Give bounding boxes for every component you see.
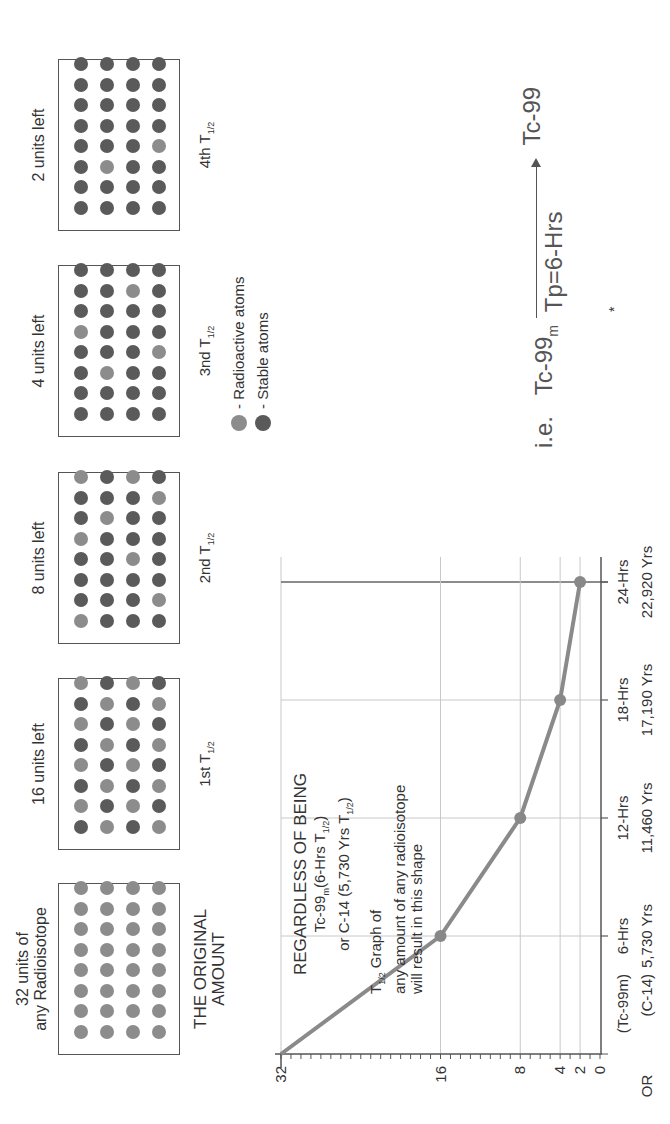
- value-tick-label: 4: [551, 1066, 568, 1074]
- note-line-c14: or C-14 (5,730 Yrs T1/2): [335, 754, 359, 994]
- chart-note: REGARDLESS OF BEING Tc-99m(6-Hrs T1/2) o…: [292, 754, 425, 994]
- value-tick-label: 32: [272, 1066, 289, 1083]
- row-prefix-tc99m: (Tc-99m): [614, 974, 631, 1033]
- time-label-tc99m: 18-Hrs: [614, 677, 631, 722]
- or-label: OR: [638, 1075, 655, 1098]
- decay-equation: i.e. Tc-99m Tp=6-Hrs Tc-99: [530, 87, 561, 448]
- time-label-tc99m: 12-Hrs: [614, 795, 631, 840]
- equation-prefix: i.e.: [530, 416, 557, 448]
- row-prefix-c14: (C-14): [638, 974, 655, 1017]
- figure-stage: 32 units ofany RadioisotopeTHE ORIGINALA…: [0, 0, 670, 1124]
- asterisk-mark: *: [606, 307, 622, 312]
- equation-reactant: Tc-99m: [530, 325, 557, 395]
- time-label-tc99m: 6-Hrs: [614, 918, 631, 955]
- note-line-graph: T1/2 Graph of: [367, 754, 391, 994]
- equation-product: Tc-99: [518, 87, 545, 146]
- value-tick-label: 0: [591, 1066, 608, 1074]
- note-title: REGARDLESS OF BEING: [292, 754, 309, 994]
- time-label-c14: 11,460 Yrs: [638, 782, 655, 853]
- time-label-c14: 5,730 Yrs: [638, 904, 655, 968]
- time-label-c14: 17,190 Yrs: [638, 664, 655, 736]
- equation-condition: Tp=6-Hrs: [540, 212, 568, 313]
- value-tick-label: 2: [571, 1066, 588, 1074]
- data-point-marker: [574, 576, 586, 588]
- note-line-any-amount: any amount of any radioisotope: [391, 754, 408, 994]
- equation-arrow: Tp=6-Hrs: [534, 158, 558, 318]
- value-tick-label: 16: [432, 1066, 449, 1083]
- time-label-c14: 22,920 Yrs: [638, 546, 655, 618]
- data-point-marker: [554, 694, 566, 706]
- arrow-head-icon: [531, 158, 541, 167]
- note-line-tc99m: Tc-99m(6-Hrs T1/2): [311, 754, 335, 994]
- note-line-result: will result in this shape: [408, 754, 425, 994]
- data-point-marker: [435, 930, 447, 942]
- data-point-marker: [514, 812, 526, 824]
- value-tick-label: 8: [511, 1066, 528, 1074]
- time-label-tc99m: 24-Hrs: [614, 559, 631, 604]
